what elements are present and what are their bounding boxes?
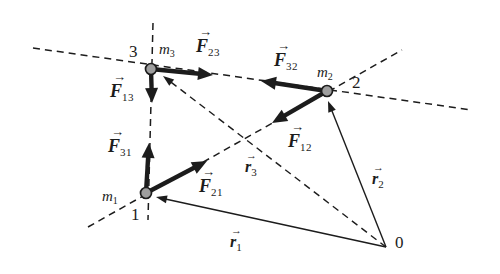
force-F31 [142, 143, 155, 193]
force-F23-shaft [151, 69, 200, 74]
position-vector-r2-arrowhead [328, 101, 336, 113]
position-vector-r1-shaft [165, 199, 386, 247]
position-vector-r3-arrowhead [163, 76, 174, 86]
force-F12 [272, 91, 327, 123]
force-F13-arrowhead [145, 88, 158, 103]
force-F12-shaft [284, 91, 327, 116]
force-F21-shaft [146, 167, 195, 193]
three-body-force-diagram: →F23→F32→F13→F31→F21→F12→r1→r2→r3m33m22m… [0, 0, 500, 274]
force-F32-arrowhead [261, 77, 277, 90]
line-through-3-2 [33, 48, 472, 110]
force-F23-arrowhead [197, 67, 213, 80]
force-F31-arrowhead [142, 143, 155, 158]
line-through-1-2 [88, 50, 402, 227]
diagram-canvas [0, 0, 500, 274]
line-through-3-2 [33, 48, 472, 110]
mass-dot-m3 [146, 64, 157, 75]
mass-dot-m1 [141, 188, 152, 199]
position-vector-r1-arrowhead [156, 195, 168, 203]
force-F32-shaft [274, 83, 327, 91]
line-through-1-2 [88, 50, 402, 227]
mass-dot-m2 [322, 86, 333, 97]
force-F21 [146, 161, 207, 193]
position-vector-r2-shaft [332, 110, 386, 247]
force-F32 [261, 77, 327, 91]
position-vector-r1 [156, 195, 386, 247]
